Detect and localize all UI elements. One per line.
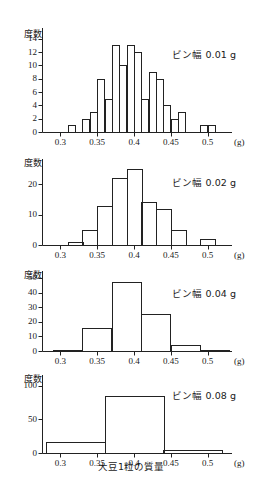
histogram-bar	[113, 46, 120, 133]
x-tick-label: 0.3	[49, 251, 71, 260]
y-tick-label: 50	[15, 273, 37, 282]
x-axis-title: 大豆1粒の質量	[0, 462, 262, 472]
histogram-bar	[201, 351, 230, 352]
y-tick-label: 100	[15, 381, 37, 390]
bin-width-annotation: ビン幅 0.02 g	[172, 178, 236, 188]
histogram-bar	[69, 126, 76, 133]
y-tick-label: 0	[15, 241, 37, 250]
histogram-panel-3: 度数0501000.30.350.40.450.5(g)ビン幅 0.08 g	[0, 365, 262, 465]
x-tick-label: 0.35	[86, 251, 108, 260]
histogram-bar	[142, 203, 157, 246]
y-tick-label: 50	[15, 415, 37, 424]
x-tick-label: 0.4	[123, 251, 145, 260]
histogram-bar	[142, 315, 171, 352]
y-tick-label: 14	[15, 34, 37, 43]
histogram-bar	[142, 100, 149, 133]
histogram-bar	[157, 210, 172, 246]
y-tick-label: 6	[15, 88, 37, 97]
histogram-bar	[47, 443, 106, 454]
histogram-bar	[120, 66, 127, 133]
histogram-bar	[128, 170, 143, 246]
y-tick-label: 2	[15, 114, 37, 123]
bin-width-annotation: ビン幅 0.08 g	[172, 391, 236, 401]
histogram-bar	[172, 346, 201, 352]
histogram-bar	[128, 46, 135, 133]
y-axis-label: 度数	[24, 159, 42, 168]
histogram-bar	[83, 231, 98, 246]
histogram-bar	[157, 80, 164, 133]
histogram-bar	[106, 397, 165, 454]
y-tick-label: 40	[15, 288, 37, 297]
y-tick-label: 0	[15, 128, 37, 137]
y-tick-label: 0	[15, 449, 37, 458]
histogram-bar	[83, 120, 90, 133]
x-tick-label: 0.45	[160, 251, 182, 260]
histogram-bar	[54, 351, 83, 352]
x-tick-label: 0.5	[197, 251, 219, 260]
histogram-bar	[113, 179, 128, 246]
histogram-bar	[91, 113, 98, 133]
histogram-bar	[98, 80, 105, 133]
figure-root: 度数024681012140.30.350.40.450.5(g)ビン幅 0.0…	[0, 0, 262, 482]
histogram-panel-1: 度数010200.30.350.40.450.5(g)ビン幅 0.02 g	[0, 145, 262, 257]
histogram-bar	[113, 283, 142, 352]
histogram-bar	[201, 126, 208, 133]
histogram-bar	[83, 329, 112, 352]
histogram-bar	[172, 231, 187, 246]
y-tick-label: 10	[15, 61, 37, 70]
y-tick-label: 20	[15, 317, 37, 326]
histogram-bar	[209, 126, 216, 133]
histogram-bar	[106, 100, 113, 133]
y-tick-label: 10	[15, 210, 37, 219]
bin-width-annotation: ビン幅 0.04 g	[172, 289, 236, 299]
histogram-bar	[164, 106, 171, 133]
y-tick-label: 30	[15, 303, 37, 312]
y-tick-label: 10	[15, 332, 37, 341]
bin-width-annotation: ビン幅 0.01 g	[172, 50, 236, 60]
histogram-bar	[172, 120, 179, 133]
histogram-bar	[69, 243, 84, 246]
y-tick-label: 4	[15, 101, 37, 110]
histogram-bar	[150, 73, 157, 133]
histogram-bar	[201, 240, 216, 246]
x-axis-unit: (g)	[234, 251, 245, 260]
y-tick-label: 8	[15, 74, 37, 83]
y-tick-label: 12	[15, 48, 37, 57]
histogram-panel-0: 度数024681012140.30.350.40.450.5(g)ビン幅 0.0…	[0, 14, 262, 138]
histogram-bar	[135, 53, 142, 133]
histogram-bar	[98, 207, 113, 246]
histogram-bar	[179, 113, 186, 133]
y-tick-label: 20	[15, 180, 37, 189]
y-tick-label: 0	[15, 347, 37, 356]
histogram-panel-2: 度数010203040500.30.350.40.450.5(g)ビン幅 0.0…	[0, 261, 262, 363]
histogram-bar	[164, 451, 223, 454]
